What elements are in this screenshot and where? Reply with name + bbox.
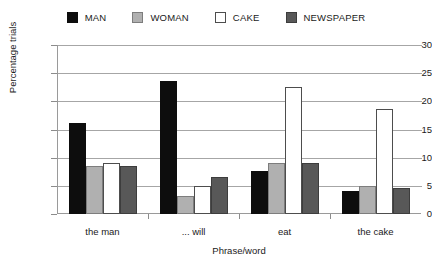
x-tick-label: eat [237, 226, 333, 237]
bar-newspaper [120, 166, 137, 214]
x-tick-label: the man [55, 226, 151, 237]
legend-label-cake: CAKE [233, 12, 260, 23]
bar-cake [194, 186, 211, 214]
legend-item-man: MAN [67, 12, 107, 23]
bar-man [160, 81, 177, 215]
legend-swatch-man-icon [67, 12, 78, 23]
y-tick-mark [51, 214, 57, 215]
bar-group-eat [240, 45, 331, 214]
legend-item-woman: WOMAN [132, 12, 188, 23]
chart-legend: MAN WOMAN CAKE NEWSPAPER [0, 8, 432, 26]
x-tick-label: ... will [146, 226, 242, 237]
bar-group-the-man [58, 45, 149, 214]
legend-item-newspaper: NEWSPAPER [286, 12, 366, 23]
bar-man [251, 171, 268, 214]
x-tick-mark [330, 214, 331, 219]
x-tick-mark [148, 214, 149, 219]
bar-cake [285, 87, 302, 214]
bar-woman [177, 196, 194, 214]
x-axis-title: Phrase/word [57, 245, 421, 256]
bar-woman [268, 163, 285, 214]
legend-swatch-cake-icon [215, 12, 226, 23]
bar-cake [376, 109, 393, 214]
bar-groups [58, 45, 421, 214]
legend-item-cake: CAKE [215, 12, 260, 23]
bar-man [69, 123, 86, 214]
legend-label-newspaper: NEWSPAPER [304, 12, 366, 23]
x-tick-mark [239, 214, 240, 219]
bar-newspaper [393, 188, 410, 214]
bar-group-the-cake [330, 45, 421, 214]
bar-newspaper [211, 177, 228, 214]
legend-label-man: MAN [85, 12, 107, 23]
legend-swatch-newspaper-icon [286, 12, 297, 23]
bar-cake [103, 163, 120, 214]
bar-group-will [149, 45, 240, 214]
x-tick-label: the cake [328, 226, 424, 237]
legend-label-woman: WOMAN [150, 12, 188, 23]
y-axis-title: Percentage trials [7, 0, 18, 118]
legend-swatch-woman-icon [132, 12, 143, 23]
bar-woman [359, 186, 376, 214]
bar-man [342, 191, 359, 214]
bar-woman [86, 166, 103, 214]
bar-newspaper [302, 163, 319, 214]
